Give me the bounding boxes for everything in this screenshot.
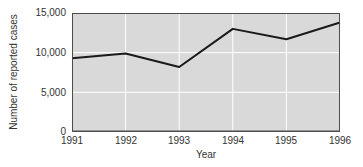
x-tick-label-1994: 1994 (211, 135, 255, 146)
plot-background (72, 13, 340, 132)
y-tick-label-10000: 10,000 (0, 48, 66, 58)
y-tick-label-15000: 15,000 (0, 8, 66, 18)
y-tick-label-5000: 5,000 (0, 88, 66, 98)
x-tick-label-1995: 1995 (264, 135, 308, 146)
x-tick-label-1991: 1991 (50, 135, 94, 146)
y-axis-title: Number of reported cases (8, 12, 20, 132)
x-tick-label-1992: 1992 (104, 135, 148, 146)
x-tick-label-1996: 1996 (318, 135, 362, 146)
line-chart-figure: Number of reported cases 15,000 10,000 5… (0, 0, 363, 167)
x-tick-label-1993: 1993 (157, 135, 201, 146)
plot-area (72, 13, 340, 132)
x-axis-title: Year (72, 149, 340, 160)
